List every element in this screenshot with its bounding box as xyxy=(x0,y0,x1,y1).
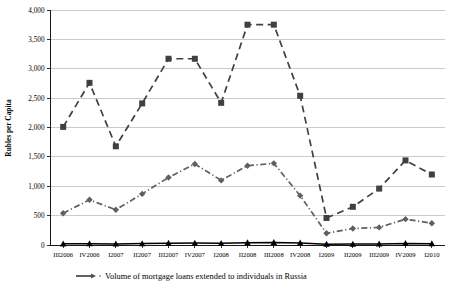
series-dashed-squares xyxy=(60,22,435,221)
data-point-marker xyxy=(403,157,409,163)
x-tick-label: IV2009 xyxy=(395,251,416,258)
data-point-marker xyxy=(87,80,93,86)
x-tick-label: I2009 xyxy=(319,251,335,258)
x-tick-label: II2008 xyxy=(239,251,257,258)
data-point-marker xyxy=(324,215,330,221)
data-point-marker xyxy=(376,186,382,192)
series-line xyxy=(63,163,432,233)
chart-legend: Volume of mortgage loans extended to ind… xyxy=(76,272,307,281)
data-point-marker xyxy=(113,143,119,149)
x-tick-label: III2009 xyxy=(369,251,389,258)
x-tick-label: II2009 xyxy=(344,251,362,258)
x-tick-label: I2010 xyxy=(424,251,440,258)
data-point-marker xyxy=(60,124,66,130)
x-tick-label: III2008 xyxy=(264,251,284,258)
y-tick-label: 1,500 xyxy=(28,153,45,161)
x-axis-ticks: III2006IV2006I2007II2007III2007IV2007I20… xyxy=(53,245,440,258)
data-point-marker xyxy=(166,56,172,62)
y-tick-label: 2,500 xyxy=(28,95,45,103)
data-point-marker xyxy=(86,197,92,203)
x-tick-label: III2007 xyxy=(159,251,179,258)
data-point-marker xyxy=(402,216,408,222)
data-point-marker xyxy=(192,56,198,62)
data-point-marker xyxy=(218,100,224,106)
data-point-marker xyxy=(376,224,382,230)
chart-container: 05001,0001,5002,0002,5003,0003,5004,000 … xyxy=(0,0,450,290)
x-tick-label: IV2006 xyxy=(79,251,100,258)
series-dashdot-diamonds xyxy=(60,160,435,236)
data-point-marker xyxy=(350,225,356,231)
y-tick-label: 2,000 xyxy=(28,124,45,132)
y-tick-label: 3,000 xyxy=(28,65,45,73)
y-tick-label: 1,000 xyxy=(28,183,45,191)
y-axis-ticks: 05001,0001,5002,0002,5003,0003,5004,000 xyxy=(28,7,50,250)
data-point-marker xyxy=(245,22,251,28)
y-tick-label: 500 xyxy=(34,212,45,220)
y-tick-label: 4,000 xyxy=(28,7,45,15)
legend-label: Volume of mortgage loans extended to ind… xyxy=(105,272,307,281)
data-series xyxy=(60,22,435,247)
data-point-marker xyxy=(244,162,250,168)
x-tick-label: IV2008 xyxy=(290,251,311,258)
data-point-marker xyxy=(323,230,329,236)
x-tick-label: IV2007 xyxy=(185,251,206,258)
x-tick-label: II2007 xyxy=(133,251,151,258)
y-axis-title: Rubles per Capita xyxy=(4,99,13,157)
x-tick-label: III2006 xyxy=(53,251,73,258)
data-point-marker xyxy=(113,207,119,213)
data-point-marker xyxy=(429,220,435,226)
y-tick-label: 3,500 xyxy=(28,36,45,44)
data-point-marker xyxy=(429,172,435,178)
line-chart: 05001,0001,5002,0002,5003,0003,5004,000 … xyxy=(0,0,450,290)
x-tick-label: I2008 xyxy=(213,251,229,258)
data-point-marker xyxy=(271,22,277,28)
gridlines xyxy=(50,10,445,216)
legend-arrow-icon xyxy=(91,273,96,278)
legend-dot-icon xyxy=(99,275,101,277)
y-tick-label: 0 xyxy=(41,242,45,250)
data-point-marker xyxy=(297,93,303,99)
x-tick-label: I2007 xyxy=(108,251,124,258)
data-point-marker xyxy=(139,100,145,106)
data-point-marker xyxy=(350,204,356,210)
